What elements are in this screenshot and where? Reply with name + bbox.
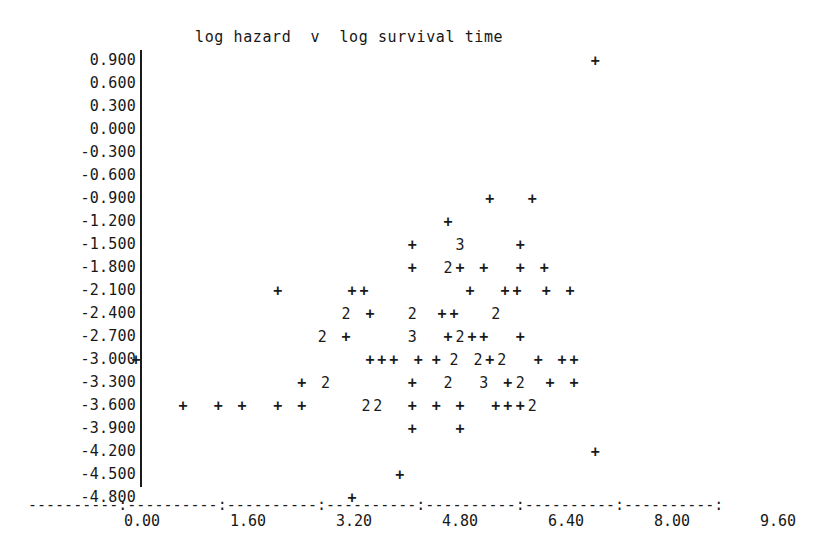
data-point-marker: + [558, 349, 567, 372]
data-point-marker: + [516, 326, 525, 349]
data-point-marker: + [479, 257, 488, 280]
data-point-marker: + [542, 280, 551, 303]
data-point-marker: + [273, 280, 282, 303]
x-axis-tick-label: 0.00 [124, 512, 160, 530]
data-point-marker: + [132, 349, 141, 372]
data-point-count-marker: 2 [361, 395, 370, 418]
data-point-count-marker: 2 [373, 395, 382, 418]
data-point-marker: + [408, 395, 417, 418]
data-point-marker: + [408, 372, 417, 395]
data-point-marker: + [591, 441, 600, 464]
data-point-marker: + [456, 418, 465, 441]
data-point-marker: + [348, 280, 357, 303]
data-point-marker: + [467, 326, 476, 349]
data-point-count-marker: 2 [342, 303, 351, 326]
data-point-marker: + [450, 303, 459, 326]
data-point-marker: + [408, 234, 417, 257]
data-point-count-marker: 2 [318, 326, 327, 349]
data-point-marker: + [534, 349, 543, 372]
data-point-marker: + [479, 326, 488, 349]
data-point-marker: + [377, 349, 386, 372]
x-axis-tick-label: 9.60 [760, 512, 796, 530]
x-axis-tick-label: 1.60 [230, 512, 266, 530]
data-point-count-marker: 3 [408, 326, 417, 349]
x-axis-tick-label: 6.40 [548, 512, 584, 530]
x-axis-tick-label: 3.20 [336, 512, 372, 530]
data-point-marker: + [359, 280, 368, 303]
data-point-marker: + [297, 372, 306, 395]
data-point-count-marker: 2 [528, 395, 537, 418]
data-point-marker: + [503, 372, 512, 395]
data-point-marker: + [297, 395, 306, 418]
data-point-count-marker: 2 [444, 257, 453, 280]
data-point-marker: + [408, 418, 417, 441]
x-axis-tick-label: 8.00 [654, 512, 690, 530]
data-point-count-marker: 3 [456, 234, 465, 257]
data-point-marker: + [444, 211, 453, 234]
data-point-marker: + [432, 349, 441, 372]
data-point-marker: + [485, 349, 494, 372]
data-point-marker: + [342, 326, 351, 349]
data-point-marker: + [179, 395, 188, 418]
data-point-count-marker: 2 [450, 349, 459, 372]
data-point-marker: + [389, 349, 398, 372]
x-axis-tick-label: 4.80 [442, 512, 478, 530]
data-point-marker: + [414, 349, 423, 372]
data-point-marker: + [546, 372, 555, 395]
data-point-marker: + [501, 280, 510, 303]
data-point-count-marker: 2 [473, 349, 482, 372]
data-point-marker: + [238, 395, 247, 418]
data-point-marker: + [432, 395, 441, 418]
data-point-marker: + [569, 349, 578, 372]
data-point-marker: + [516, 257, 525, 280]
data-point-marker: + [395, 464, 404, 487]
data-point-marker: + [214, 395, 223, 418]
data-point-marker: + [491, 395, 500, 418]
data-point-marker: + [516, 234, 525, 257]
data-point-marker: + [569, 372, 578, 395]
data-point-marker: + [485, 188, 494, 211]
data-point-marker: + [365, 349, 374, 372]
data-point-layer: +++++3++2++++++++++++2+2++22+3+2++++++++… [0, 0, 837, 553]
data-point-marker: + [540, 257, 549, 280]
data-point-marker: + [408, 257, 417, 280]
data-point-count-marker: 2 [491, 303, 500, 326]
data-point-marker: + [438, 303, 447, 326]
data-point-count-marker: 2 [444, 372, 453, 395]
x-axis-tick-labels: 0.001.603.204.806.408.009.60 [0, 512, 837, 536]
data-point-marker: + [273, 395, 282, 418]
data-point-count-marker: 2 [497, 349, 506, 372]
data-point-marker: + [503, 395, 512, 418]
data-point-marker: + [516, 395, 525, 418]
data-point-marker: + [528, 188, 537, 211]
scatter-plot-figure: log hazard v log survival time 0.9000.60… [0, 0, 837, 553]
data-point-count-marker: 2 [516, 372, 525, 395]
data-point-marker: + [465, 280, 474, 303]
data-point-marker: + [565, 280, 574, 303]
data-point-marker: + [512, 280, 521, 303]
data-point-marker: + [444, 326, 453, 349]
data-point-marker: + [456, 395, 465, 418]
data-point-marker: + [456, 257, 465, 280]
data-point-count-marker: 3 [479, 372, 488, 395]
data-point-count-marker: 2 [321, 372, 330, 395]
data-point-count-marker: 2 [456, 326, 465, 349]
data-point-marker: + [365, 303, 374, 326]
data-point-marker: + [591, 50, 600, 73]
data-point-count-marker: 2 [408, 303, 417, 326]
